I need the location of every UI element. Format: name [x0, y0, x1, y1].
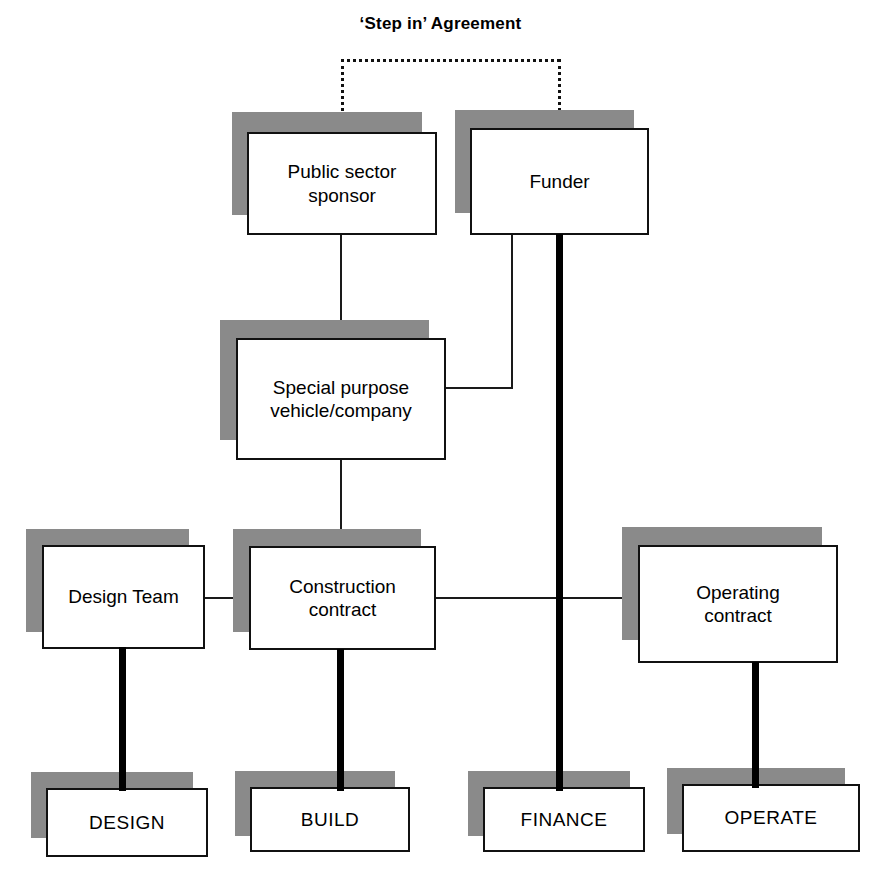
node-frame: Operating contract [638, 545, 838, 663]
ppp-structure-diagram: ‘Step in’ Agreement Public sector sponso… [0, 0, 881, 882]
connector-construction-to-operating [435, 597, 639, 599]
step-in-agreement-dotted-top [341, 59, 560, 62]
node-label: Design Team [62, 585, 185, 608]
node-frame: Public sector sponsor [247, 132, 437, 235]
node-label: Funder [523, 170, 595, 193]
connector-construction-to-build [337, 649, 344, 791]
node-frame: Funder [470, 128, 649, 235]
node-label: FINANCE [515, 808, 614, 831]
connector-funder-to-spv-horizontal [445, 387, 513, 389]
connector-operating-to-operate [752, 662, 759, 788]
node-frame: DESIGN [46, 788, 208, 857]
connector-funder-down [511, 234, 513, 389]
node-label: Construction contract [283, 575, 402, 621]
node-label: DESIGN [83, 811, 171, 834]
node-frame: FINANCE [483, 787, 645, 852]
node-label: Special purpose vehicle/company [264, 376, 418, 422]
node-label: Public sector sponsor [282, 160, 403, 206]
node-label: Operating contract [690, 581, 785, 627]
node-frame: OPERATE [682, 784, 860, 852]
connector-funder-to-finance [556, 234, 563, 791]
connector-design-team-to-design [119, 647, 126, 791]
node-frame: Special purpose vehicle/company [236, 338, 446, 460]
diagram-title: ‘Step in’ Agreement [0, 14, 881, 34]
node-frame: BUILD [250, 787, 410, 852]
node-label: OPERATE [719, 806, 824, 829]
node-frame: Design Team [42, 545, 205, 649]
node-label: BUILD [295, 808, 365, 831]
node-frame: Construction contract [249, 546, 436, 650]
